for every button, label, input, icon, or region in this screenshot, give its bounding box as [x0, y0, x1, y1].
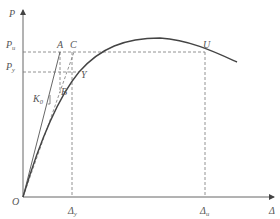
dashed-guides — [23, 52, 205, 197]
origin-label: O — [12, 196, 19, 207]
k0-label: K0 — [32, 93, 44, 105]
point-b-label: B — [61, 86, 67, 97]
point-y-label: Y — [81, 69, 88, 80]
load-displacement-diagram: P Pu Py A C Y B U K0 O Δy Δu Δ — [0, 0, 280, 219]
pu-label: Pu — [5, 39, 16, 51]
point-a-label: A — [56, 39, 64, 50]
py-label: Py — [5, 61, 15, 73]
delta-y-label: Δy — [67, 205, 77, 217]
y-axis-label: P — [8, 8, 15, 19]
point-c-label: C — [70, 39, 77, 50]
point-u-label: U — [203, 39, 211, 50]
x-axis-label: Δ — [268, 205, 275, 216]
initial-stiffness-line — [23, 52, 60, 197]
delta-u-label: Δu — [199, 205, 210, 217]
